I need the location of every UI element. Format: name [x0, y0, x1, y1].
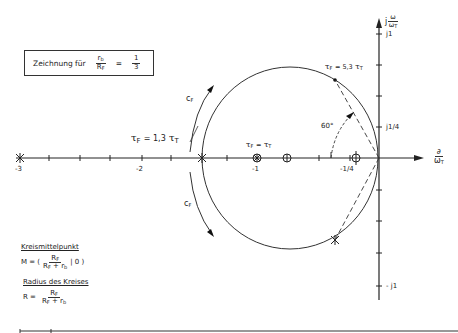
- radius-lhs: R =: [23, 294, 36, 301]
- x-label-fraction: ∂ ωT: [434, 148, 444, 166]
- y-tick-j-quarter: j1/4: [386, 124, 399, 131]
- center-title: Kreismittelpunkt: [21, 244, 79, 251]
- tau-mid-sub2: T: [268, 143, 271, 149]
- tau-mid-label: τF = τT: [246, 141, 271, 149]
- y-axis-label: j ω ωT: [385, 14, 399, 29]
- tau-upper-sub: F: [329, 65, 332, 71]
- center-den-tail: + r: [51, 262, 64, 270]
- x-tick-minus1: -1: [252, 166, 259, 173]
- tau-left-eq: = 1,3: [144, 134, 166, 143]
- cf-lower-label: cF: [184, 200, 191, 208]
- x-tick-minus-quarter: -1/4: [340, 166, 354, 173]
- ratio-fraction: rb RF: [96, 55, 106, 71]
- radius-fraction: RF RF + rb: [42, 290, 66, 306]
- tau-upper-label: τF = 5,3 τT: [325, 63, 363, 71]
- center-lhs: M = (: [21, 259, 40, 266]
- center-num-sub: F: [56, 256, 59, 262]
- center-den-tail-sub: b: [64, 264, 67, 270]
- value-fraction: 1 3: [132, 55, 140, 71]
- box-equals: =: [116, 59, 122, 68]
- ratio-info-box: Zeichnung für rb RF = 1 3: [24, 50, 154, 76]
- tau-left-sub2: T: [174, 137, 178, 145]
- y-tick-minus-j1: - j1: [386, 283, 397, 290]
- real-axis-arrow-icon: [414, 155, 424, 161]
- x-tick-minus2: -2: [136, 166, 143, 173]
- box-prefix: Zeichnung für: [33, 59, 86, 68]
- ratio-num-sub: b: [101, 56, 104, 62]
- tau-left-label: τF = 1,3 τT: [131, 133, 179, 145]
- radius-den-tail-sub: b: [63, 299, 66, 305]
- center-fraction: RF RF + rb: [43, 255, 67, 271]
- tau-left-sub: F: [137, 137, 141, 145]
- y-label-fraction: ω ωT: [388, 14, 397, 29]
- tau-mid-sub: F: [250, 143, 253, 149]
- angle-arrow-icon: [346, 112, 354, 119]
- angle-arc: [331, 114, 352, 158]
- tau-mid-eq: =: [256, 141, 261, 149]
- cf-upper-direction-arc: [190, 88, 212, 152]
- x-label-den-sub: T: [441, 159, 444, 165]
- cf-upper-arrow-icon: [207, 85, 214, 93]
- ratio-den-sub: F: [102, 65, 105, 71]
- center-formula: M = ( RF RF + rb | 0 ): [21, 255, 84, 271]
- cf-lower-sub: F: [188, 202, 191, 208]
- imag-axis-arrow-icon: [376, 18, 382, 28]
- cf-lower-direction-arc: [190, 172, 212, 234]
- tau-upper-eq: = 5,3: [335, 63, 353, 71]
- cf-lower-arrow-icon: [207, 229, 214, 237]
- y-tick-j1: j1: [386, 31, 392, 38]
- x-axis-label: ∂ ωT: [430, 148, 448, 166]
- y-label-prefix: j: [385, 18, 387, 26]
- value-den: 3: [134, 64, 138, 71]
- radius-den-tail: + r: [50, 297, 63, 305]
- cf-upper-sub: F: [190, 97, 193, 103]
- radius-num-sub: F: [55, 291, 58, 297]
- tau-upper-sub2: T: [360, 65, 363, 71]
- dashed-line-upper: [335, 80, 379, 158]
- x-tick-minus3: -3: [15, 166, 22, 173]
- angle-label: 60°: [321, 123, 333, 130]
- center-rhs: | 0 ): [70, 259, 84, 266]
- cf-upper-label: cF: [186, 95, 193, 103]
- radius-formula: R = RF RF + rb: [23, 290, 72, 306]
- x-label-den: ω: [434, 156, 441, 165]
- radius-title: Radius des Kreises: [23, 279, 89, 286]
- y-label-den-sub: T: [394, 23, 397, 29]
